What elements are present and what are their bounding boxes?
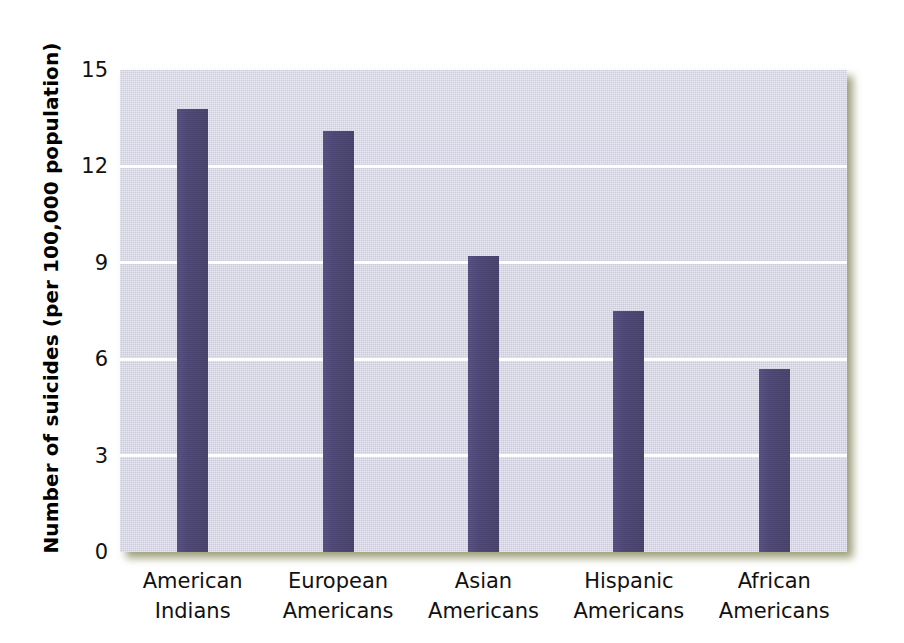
y-tick-label: 9 — [68, 251, 108, 275]
bar-african-americans — [759, 369, 790, 552]
x-tick-label-line: Hispanic — [549, 566, 709, 596]
x-tick-label: AfricanAmericans — [694, 566, 854, 626]
x-tick-label-line: Americans — [404, 596, 564, 626]
x-tick-label-line: Americans — [258, 596, 418, 626]
x-tick-label: EuropeanAmericans — [258, 566, 418, 626]
x-tick-label-line: European — [258, 566, 418, 596]
bar-chart-figure: Number of suicides (per 100,000 populati… — [0, 0, 904, 643]
x-tick-label-line: African — [694, 566, 854, 596]
plot-area — [120, 70, 847, 552]
bar-european-americans — [323, 131, 354, 552]
y-tick-label: 3 — [68, 444, 108, 468]
x-tick-label-line: Asian — [404, 566, 564, 596]
y-tick-label: 6 — [68, 347, 108, 371]
bar-american-indians — [177, 109, 208, 552]
y-tick-label: 12 — [68, 154, 108, 178]
x-tick-label: AsianAmericans — [404, 566, 564, 626]
y-tick-label: 15 — [68, 58, 108, 82]
x-tick-label-line: Americans — [549, 596, 709, 626]
x-tick-label: HispanicAmericans — [549, 566, 709, 626]
x-tick-label-line: American — [113, 566, 273, 596]
gridline — [120, 165, 847, 168]
bar-hispanic-americans — [613, 311, 644, 552]
y-axis-title: Number of suicides (per 100,000 populati… — [34, 18, 68, 578]
x-tick-label-line: Americans — [694, 596, 854, 626]
bar-asian-americans — [468, 256, 499, 552]
x-tick-label: AmericanIndians — [113, 566, 273, 626]
y-tick-label: 0 — [68, 540, 108, 564]
x-tick-label-line: Indians — [113, 596, 273, 626]
